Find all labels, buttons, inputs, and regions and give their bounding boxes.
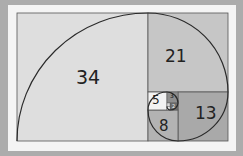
square-21 <box>148 13 228 92</box>
label-13: 13 <box>195 103 217 123</box>
label-8: 8 <box>159 117 169 135</box>
label-5: 5 <box>152 93 160 107</box>
fibonacci-diagram <box>0 0 243 156</box>
square-1 <box>167 103 170 107</box>
label-2: 2 <box>172 103 175 109</box>
label-34: 34 <box>76 66 100 88</box>
label-21: 21 <box>165 46 187 66</box>
label-3: 3 <box>170 92 174 99</box>
